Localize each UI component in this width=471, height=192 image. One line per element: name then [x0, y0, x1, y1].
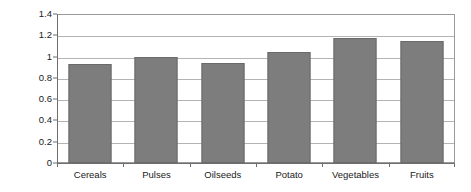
y-axis-tick-label: 1.4 [8, 9, 52, 19]
y-axis-tick-label: 0.2 [8, 137, 52, 147]
x-axis-tick-mark [190, 163, 191, 167]
bar-slot [389, 14, 455, 163]
bar-slot [123, 14, 189, 163]
x-axis-category-label: Fruits [410, 170, 434, 180]
x-axis-tick-mark [454, 163, 455, 167]
y-axis-tick-label: 0.6 [8, 94, 52, 104]
bar[interactable] [69, 64, 112, 163]
bar-slot [190, 14, 256, 163]
bar[interactable] [201, 63, 244, 163]
x-axis-category-label: Oilseeds [204, 170, 241, 180]
y-axis-tick-label: 1.2 [8, 31, 52, 41]
x-axis-category-label: Cereals [74, 170, 107, 180]
y-axis-tick-label: 0 [8, 158, 52, 168]
x-axis-tick-mark [322, 163, 323, 167]
y-axis-labels: 00.20.40.60.811.21.4 [0, 0, 52, 192]
bar[interactable] [268, 52, 311, 163]
bar[interactable] [135, 57, 178, 163]
x-axis-tick-mark [123, 163, 124, 167]
x-axis-tick-mark [256, 163, 257, 167]
x-axis-category-label: Potato [275, 170, 302, 180]
y-axis-tick-label: 0.4 [8, 116, 52, 126]
bar[interactable] [400, 41, 443, 163]
bar[interactable] [334, 38, 377, 163]
x-axis-tick-marks [57, 163, 455, 168]
y-axis-tick-label: 0.8 [8, 73, 52, 83]
y-axis-tick-label: 1 [8, 52, 52, 62]
x-axis-tick-mark [389, 163, 390, 167]
x-axis-tick-mark [57, 163, 58, 167]
bars-layer [57, 14, 455, 163]
x-axis-labels: CerealsPulsesOilseedsPotatoVegetablesFru… [57, 170, 455, 188]
bar-chart: 00.20.40.60.811.21.4 CerealsPulsesOilsee… [0, 0, 471, 192]
bar-slot [57, 14, 123, 163]
x-axis-category-label: Vegetables [332, 170, 379, 180]
x-axis-category-label: Pulses [142, 170, 171, 180]
bar-slot [256, 14, 322, 163]
bar-slot [322, 14, 388, 163]
